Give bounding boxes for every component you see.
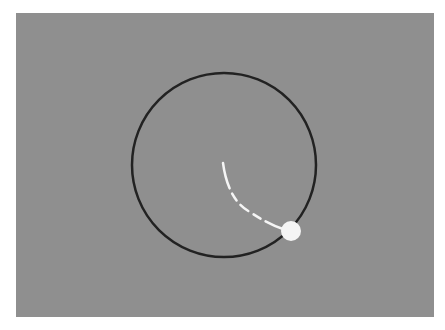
- ball[interactable]: [281, 221, 301, 241]
- ball-trail: [223, 163, 283, 229]
- scene-graphics: [0, 0, 445, 330]
